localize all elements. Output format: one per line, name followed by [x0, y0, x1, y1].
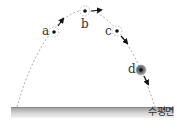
trajectory-diagram: a b c d 수평면 — [0, 0, 177, 130]
velocity-arrow-c — [121, 36, 127, 43]
velocity-arrow-b — [91, 10, 101, 11]
label-d: d — [128, 63, 136, 75]
point-d — [136, 65, 148, 84]
label-a: a — [42, 25, 49, 37]
point-a — [49, 19, 63, 37]
velocity-arrow-d — [144, 76, 148, 84]
ground-label: 수평면 — [148, 107, 174, 117]
label-b: b — [81, 18, 89, 30]
velocity-arrow-a — [58, 19, 63, 26]
point-c — [112, 26, 127, 43]
label-c: c — [105, 25, 112, 37]
